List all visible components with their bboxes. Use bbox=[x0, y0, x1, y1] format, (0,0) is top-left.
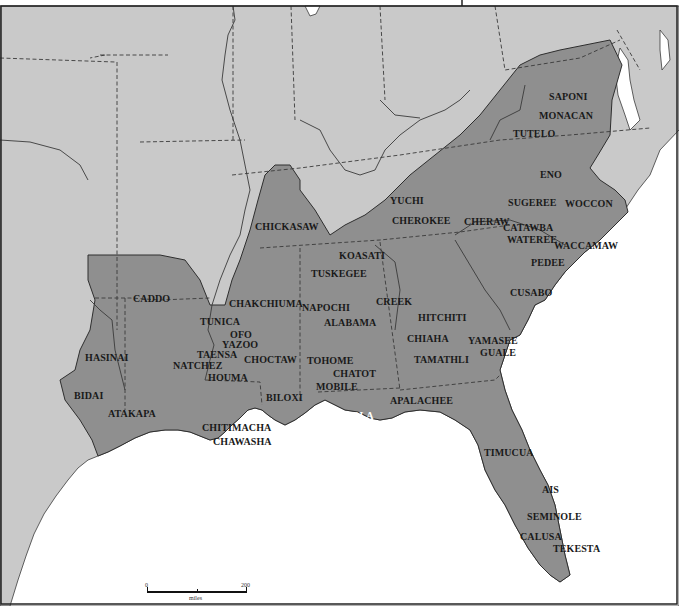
scale-bar-line bbox=[147, 591, 247, 593]
label-chitimacha: CHITIMACHA bbox=[202, 423, 271, 433]
label-tohome: TOHOME bbox=[307, 356, 354, 366]
label-hasinai: HASINAI bbox=[85, 353, 129, 363]
label-taensa: TAENSA bbox=[197, 350, 237, 360]
label-pensacola: PENSACOLA bbox=[311, 411, 374, 421]
label-tunica: TUNICA bbox=[200, 317, 240, 327]
label-bidai: BIDAI bbox=[74, 391, 103, 401]
label-napochi: NAPOCHI bbox=[302, 303, 350, 313]
label-timucua: TIMUCUA bbox=[484, 448, 534, 458]
label-saponi: SAPONI bbox=[549, 92, 587, 102]
label-natchez: NATCHEZ bbox=[173, 361, 222, 371]
label-pedee: PEDEE bbox=[531, 258, 565, 268]
label-yamasee: YAMASEE bbox=[468, 336, 518, 346]
label-choctaw: CHOCTAW bbox=[244, 355, 297, 365]
label-guale: GUALE bbox=[480, 348, 516, 358]
label-chickasaw: CHICKASAW bbox=[255, 222, 319, 232]
label-houma: HOUMA bbox=[208, 373, 248, 383]
label-wateree: WATEREE bbox=[507, 235, 557, 245]
southeast-culture-area-map: SAPONIMONACANTUTELOENOSUGEREEWOCCONYUCHI… bbox=[0, 0, 679, 606]
label-tamathli: TAMATHLI bbox=[414, 355, 469, 365]
label-tuskegee: TUSKEGEE bbox=[311, 269, 367, 279]
label-waccamaw: WACCAMAW bbox=[554, 241, 618, 251]
label-calusa: CALUSA bbox=[520, 532, 562, 542]
label-woccon: WOCCON bbox=[565, 199, 613, 209]
label-chawasha: CHAWASHA bbox=[213, 437, 272, 447]
label-chiaha: CHIAHA bbox=[407, 334, 449, 344]
label-chakchiuma: CHAKCHIUMA bbox=[229, 299, 303, 309]
label-koasati: KOASATI bbox=[339, 251, 385, 261]
label-tekesta: TEKESTA bbox=[553, 544, 600, 554]
label-biloxi: BILOXI bbox=[266, 393, 303, 403]
label-mobile: MOBILE bbox=[316, 382, 358, 392]
label-yuchi: YUCHI bbox=[390, 196, 424, 206]
label-cusabo: CUSABO bbox=[510, 288, 552, 298]
label-seminole: SEMINOLE bbox=[527, 512, 582, 522]
label-atakapa: ATAKAPA bbox=[108, 409, 156, 419]
label-eno: ENO bbox=[540, 170, 562, 180]
label-tutelo: TUTELO bbox=[513, 129, 555, 139]
label-creek: CREEK bbox=[376, 297, 412, 307]
scale-unit: miles bbox=[189, 595, 202, 601]
label-caddo: CADDO bbox=[133, 294, 170, 304]
label-ais: AIS bbox=[542, 485, 559, 495]
label-sugeree: SUGEREE bbox=[508, 198, 557, 208]
label-apalachee: APALACHEE bbox=[390, 396, 453, 406]
label-cherokee: CHEROKEE bbox=[392, 216, 451, 226]
label-alabama: ALABAMA bbox=[324, 318, 376, 328]
label-hitchiti: HITCHITI bbox=[418, 313, 467, 323]
label-catawba: CATAWBA bbox=[503, 223, 553, 233]
scale-bar: 0 200 miles bbox=[145, 582, 250, 602]
label-monacan: MONACAN bbox=[539, 111, 593, 121]
label-chatot: CHATOT bbox=[333, 369, 376, 379]
